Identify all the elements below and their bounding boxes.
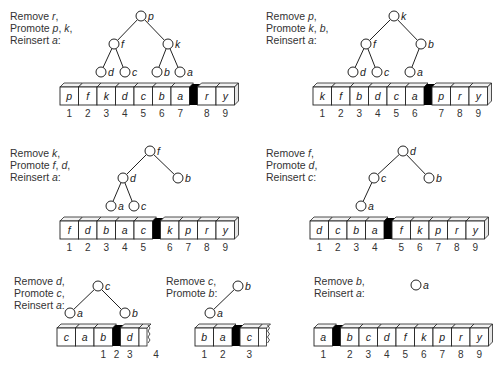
array-index: 3 [103, 108, 109, 119]
cell-value: k [421, 331, 427, 343]
panel-step1: Remove r,Promote p, k,Reinsert a:pfkdcba… [10, 10, 239, 119]
node-label: a [187, 66, 193, 78]
tree-node [120, 308, 130, 318]
tree-node [369, 173, 379, 183]
array-index: 2 [347, 349, 353, 360]
tree-node [356, 201, 366, 211]
tree-node [416, 39, 426, 49]
step-caption: Remove d,Promote c,Reinsert a: [14, 275, 65, 311]
cell-value: a [220, 331, 226, 343]
array-index: 2 [85, 242, 91, 253]
node-label: b [436, 172, 442, 184]
heap-boundary [232, 328, 240, 346]
tree-node [93, 281, 103, 291]
array-index: 4 [153, 349, 159, 360]
tree-node [372, 67, 382, 77]
node-label: b [428, 38, 434, 50]
step-caption: Remove k,Promote f, d,Reinsert a: [10, 147, 70, 183]
cell-value: a [412, 90, 418, 102]
cell-value: p [437, 90, 444, 102]
cell-value: k [320, 90, 326, 102]
array-index: 1 [201, 349, 207, 360]
tree-edge [102, 290, 122, 310]
node-label: a [77, 307, 83, 319]
cell-value: b [353, 224, 359, 236]
tree-edge [103, 49, 112, 68]
cell-value: b [100, 331, 106, 343]
heap-boundary [113, 328, 121, 346]
heap-boundary [333, 328, 341, 346]
tree-edge [154, 154, 175, 174]
array-index: 7 [185, 242, 191, 253]
tree-edge [406, 155, 425, 175]
node-label: a [368, 200, 374, 212]
array-index: 4 [372, 242, 378, 253]
cell-value: c [247, 331, 253, 343]
array-index: 2 [338, 108, 344, 119]
tree-node [106, 201, 116, 211]
cell-value: a [320, 331, 326, 343]
array-index: 8 [454, 242, 460, 253]
tree-node [129, 201, 139, 211]
node-label: b [245, 280, 251, 292]
tree-node [361, 39, 371, 49]
tree-node [65, 308, 75, 318]
array-index: 6 [412, 108, 418, 119]
step-caption: Remove r,Promote p, k,Reinsert a: [10, 10, 72, 46]
tree-edge [125, 183, 132, 202]
node-label: c [105, 280, 111, 292]
tree-edge [116, 49, 123, 68]
cell-value: r [458, 90, 462, 102]
array-index: 8 [457, 108, 463, 119]
array-index: 8 [204, 242, 210, 253]
tree-node [96, 67, 106, 77]
node-label: f [373, 38, 377, 50]
array-index: 5 [398, 242, 404, 253]
cell-value: c [366, 331, 372, 343]
array-index: 3 [103, 242, 109, 253]
cell-value: a [82, 331, 88, 343]
array-index: 5 [393, 108, 399, 119]
array-index: 5 [402, 349, 408, 360]
tree-node [205, 308, 215, 318]
cell-value: y [472, 224, 479, 236]
array-index: 3 [127, 349, 133, 360]
array-index: 2 [335, 242, 341, 253]
array-index: 6 [417, 242, 423, 253]
cell-value: k [417, 224, 423, 236]
heapsort-diagram: Remove r,Promote p, k,Reinsert a:pfkdcba… [0, 0, 503, 378]
array-index: 4 [375, 108, 381, 119]
array-index: 7 [177, 108, 183, 119]
cell-value: c [141, 90, 147, 102]
cell-value: r [455, 224, 459, 236]
node-label: c [381, 172, 387, 184]
cell-value: p [65, 90, 72, 102]
array-index: 2 [114, 349, 120, 360]
tree-edge [113, 183, 121, 202]
cell-value: b [159, 90, 165, 102]
step-caption: Remove p,Promote k, b,Reinsert a: [266, 10, 328, 46]
tree-node [348, 67, 358, 77]
heap-boundary [384, 221, 392, 239]
node-label: p [147, 10, 154, 22]
array-index: 9 [222, 108, 228, 119]
cell-value: b [103, 224, 109, 236]
array-index: 6 [421, 349, 427, 360]
heap-boundary [424, 87, 432, 105]
panel-step5: Remove d,Promote c,Reinsert a:cabcabd123… [14, 275, 159, 360]
array-index: 9 [476, 349, 482, 360]
step-caption: Remove f,Promote d,Reinsert c: [266, 147, 317, 183]
cell-value: p [434, 224, 441, 236]
array-index: 4 [122, 108, 128, 119]
node-label: k [401, 10, 407, 22]
panel-step6: Remove c,Promote b:babac123 [166, 275, 271, 360]
array-index: 1 [320, 349, 326, 360]
tree-edge [412, 49, 419, 68]
node-label: d [130, 172, 137, 184]
panel-step4: Remove f,Promote d,Reinsert c:dcbadcbafk… [266, 145, 489, 253]
array-index: 8 [204, 108, 210, 119]
node-label: a [417, 66, 423, 78]
tree-node [411, 280, 421, 290]
node-label: b [164, 66, 170, 78]
cell-value: c [394, 90, 400, 102]
